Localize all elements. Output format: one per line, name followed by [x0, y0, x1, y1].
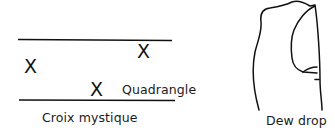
dew-drop-inner-curve: [291, 6, 317, 73]
croix-mystique-caption: Croix mystique: [42, 110, 138, 125]
x-mark-left: X: [24, 57, 37, 76]
dew-drop-caption: Dew drop: [266, 113, 327, 128]
x-mark-upper-right: X: [137, 42, 150, 61]
dew-drop-small-arc: [303, 67, 317, 72]
lower-line: [19, 100, 175, 101]
quadrangle-label: Quadrangle: [122, 82, 196, 97]
x-mark-bottom: X: [90, 80, 103, 99]
dew-drop-drawing: [253, 1, 322, 110]
dew-drop-outline: [253, 1, 322, 110]
